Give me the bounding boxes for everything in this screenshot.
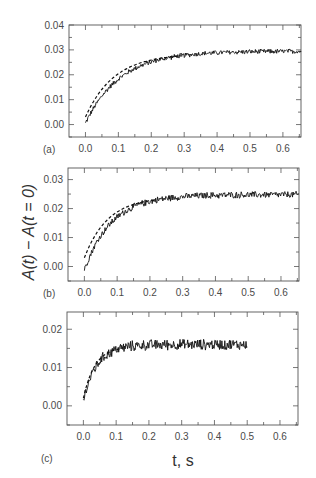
y-tick-label: 0.00 bbox=[45, 119, 65, 130]
x-tick-label: 0.0 bbox=[77, 287, 91, 298]
y-tick-label: 0.02 bbox=[44, 203, 64, 214]
y-tick-label: 0.02 bbox=[43, 324, 63, 335]
panel-a-data-trace bbox=[86, 49, 302, 123]
x-tick-label: 0.4 bbox=[208, 287, 222, 298]
panel-c-data-trace bbox=[83, 339, 247, 400]
panel-b-x-tick-labels: 0.00.10.20.30.40.50.6 bbox=[77, 287, 288, 298]
x-tick-label: 0.0 bbox=[79, 143, 93, 154]
y-tick-label: 0.02 bbox=[45, 69, 65, 80]
y-tick-label: 0.01 bbox=[45, 94, 65, 105]
panel-a-frame bbox=[69, 25, 301, 137]
panel-c-ticks bbox=[67, 312, 298, 425]
x-tick-label: 0.0 bbox=[76, 431, 90, 442]
x-tick-label: 0.5 bbox=[240, 431, 254, 442]
x-tick-label: 0.6 bbox=[273, 431, 287, 442]
panel-c-y-tick-labels: 0.000.010.02 bbox=[43, 324, 63, 412]
x-tick-label: 0.3 bbox=[177, 143, 191, 154]
x-tick-label: 0.1 bbox=[111, 143, 125, 154]
panel-a-label: (a) bbox=[43, 144, 55, 155]
y-tick-label: 0.03 bbox=[44, 174, 64, 185]
panel-a-fit-curve bbox=[86, 56, 185, 118]
x-tick-label: 0.5 bbox=[243, 143, 257, 154]
panel-b-label: (b) bbox=[43, 288, 55, 299]
panel-c: 0.000.010.02 0.00.10.20.30.40.50.6 (c) bbox=[41, 312, 298, 464]
y-tick-label: 0.01 bbox=[44, 232, 64, 243]
y-axis-title: A(t) − A(t = 0) bbox=[20, 184, 37, 281]
x-tick-label: 0.1 bbox=[109, 431, 123, 442]
x-axis-title: t, s bbox=[172, 452, 193, 469]
kinetics-figure: 0.000.010.020.030.04 0.00.10.20.30.40.50… bbox=[0, 0, 316, 478]
x-tick-label: 0.3 bbox=[175, 431, 189, 442]
y-tick-label: 0.01 bbox=[43, 362, 63, 373]
panel-a-y-tick-labels: 0.000.010.020.030.04 bbox=[45, 20, 65, 131]
y-tick-label: 0.03 bbox=[45, 44, 65, 55]
panel-a: 0.000.010.020.030.04 0.00.10.20.30.40.50… bbox=[43, 20, 301, 156]
panel-a-ticks bbox=[69, 25, 301, 137]
x-tick-label: 0.4 bbox=[207, 431, 221, 442]
y-tick-label: 0.04 bbox=[45, 20, 65, 31]
x-tick-label: 0.6 bbox=[276, 143, 290, 154]
panel-c-label: (c) bbox=[41, 453, 53, 464]
y-tick-label: 0.00 bbox=[44, 261, 64, 272]
panel-b-data-trace bbox=[84, 191, 299, 271]
x-tick-label: 0.6 bbox=[274, 287, 288, 298]
x-tick-label: 0.2 bbox=[142, 431, 156, 442]
panel-a-x-tick-labels: 0.00.10.20.30.40.50.6 bbox=[79, 143, 291, 154]
panel-b-y-tick-labels: 0.000.010.020.03 bbox=[44, 174, 64, 272]
panel-c-frame bbox=[67, 312, 298, 425]
panel-b: 0.000.010.020.03 0.00.10.20.30.40.50.6 (… bbox=[43, 168, 299, 299]
x-tick-label: 0.4 bbox=[210, 143, 224, 154]
x-tick-label: 0.5 bbox=[241, 287, 255, 298]
panel-b-fit-curve bbox=[84, 200, 156, 258]
x-tick-label: 0.3 bbox=[176, 287, 190, 298]
x-tick-label: 0.1 bbox=[110, 287, 124, 298]
y-tick-label: 0.00 bbox=[43, 400, 63, 411]
x-tick-label: 0.2 bbox=[143, 287, 157, 298]
panel-c-x-tick-labels: 0.00.10.20.30.40.50.6 bbox=[76, 431, 287, 442]
x-tick-label: 0.2 bbox=[144, 143, 158, 154]
